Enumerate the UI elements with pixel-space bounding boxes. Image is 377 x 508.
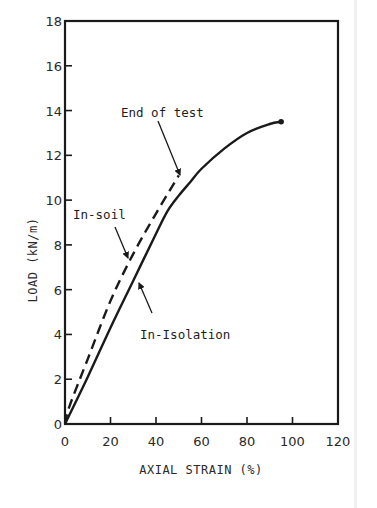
y-tick-label: 8 bbox=[54, 238, 62, 253]
annotation-arrow bbox=[158, 121, 180, 175]
data-series bbox=[65, 119, 284, 424]
y-tick-label: 10 bbox=[45, 193, 62, 208]
y-tick-label: 18 bbox=[45, 14, 62, 29]
y-tick-label: 2 bbox=[54, 372, 62, 387]
x-axis-ticks: 020406080100120 bbox=[61, 417, 351, 449]
end-point-marker bbox=[278, 119, 284, 125]
y-tick-label: 0 bbox=[54, 417, 62, 432]
annotation-label: End of test bbox=[121, 105, 204, 120]
annotations: End of testIn-soilIn-Isolation bbox=[73, 105, 230, 342]
x-tick-label: 80 bbox=[239, 434, 256, 449]
y-tick-label: 12 bbox=[45, 148, 62, 163]
x-tick-label: 120 bbox=[326, 434, 351, 449]
load-strain-chart: 024681012141618 020406080100120 End of t… bbox=[0, 0, 377, 508]
annotation-label: In-Isolation bbox=[140, 327, 230, 342]
y-axis-ticks: 024681012141618 bbox=[45, 14, 72, 432]
plot-frame bbox=[65, 21, 338, 424]
x-tick-label: 60 bbox=[193, 434, 210, 449]
annotation-label: In-soil bbox=[73, 207, 126, 222]
y-tick-label: 14 bbox=[45, 104, 62, 119]
x-tick-label: 0 bbox=[61, 434, 69, 449]
x-tick-label: 20 bbox=[102, 434, 119, 449]
series-in-isolation bbox=[65, 122, 281, 424]
annotation-arrow bbox=[139, 283, 152, 313]
x-tick-label: 100 bbox=[280, 434, 305, 449]
x-axis-label: AXIAL STRAIN (%) bbox=[139, 463, 263, 477]
x-tick-label: 40 bbox=[148, 434, 165, 449]
y-tick-label: 6 bbox=[54, 283, 62, 298]
y-axis-label: LOAD (kN/m) bbox=[26, 218, 40, 303]
y-tick-label: 16 bbox=[45, 59, 62, 74]
y-tick-label: 4 bbox=[54, 327, 62, 342]
annotation-arrow bbox=[115, 227, 128, 258]
